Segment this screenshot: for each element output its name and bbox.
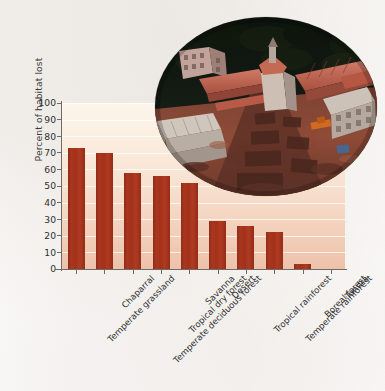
x-axis-tick-mark — [303, 270, 304, 274]
bar — [68, 148, 85, 269]
bar — [237, 226, 254, 269]
x-axis-tick-mark — [104, 270, 105, 274]
y-axis-tick-label: 60 — [44, 165, 56, 174]
y-axis-tick: 30 — [30, 213, 56, 225]
x-axis-tick-mark — [246, 270, 247, 274]
x-axis-tick-mark — [189, 270, 190, 274]
x-axis-tick-mark — [76, 270, 77, 274]
y-axis-tick-label: 70 — [44, 148, 56, 157]
aerial-photo-oval — [155, 17, 377, 196]
y-axis-tick-label: 50 — [44, 181, 56, 190]
y-axis-tick-label: 10 — [44, 248, 56, 257]
x-axis-tick-mark — [161, 270, 162, 274]
habitat-loss-figure: Percent of habitat lost 1009080706050403… — [0, 0, 385, 391]
x-axis-tick-mark — [331, 270, 332, 274]
y-axis-tick-labels: 1009080706050403020100 — [30, 97, 56, 273]
y-axis-tick-label: 20 — [44, 231, 56, 240]
bar — [181, 183, 198, 269]
y-axis-tick-label: 100 — [38, 98, 56, 107]
y-axis-tick-label: 90 — [44, 115, 56, 124]
bar — [209, 221, 226, 269]
y-axis-tick-label: 80 — [44, 132, 56, 141]
y-axis-tick: 60 — [30, 163, 56, 175]
y-axis-tick: 50 — [30, 180, 56, 192]
x-axis-tick-mark — [274, 270, 275, 274]
x-axis-tick-mark — [218, 270, 219, 274]
y-axis-tick-label: 30 — [44, 215, 56, 224]
x-axis-line — [55, 269, 347, 270]
y-axis-tick: 40 — [30, 197, 56, 209]
bar — [153, 176, 170, 269]
bar — [294, 264, 311, 269]
y-axis-tick: 80 — [30, 130, 56, 142]
y-axis-tick-label: 40 — [44, 198, 56, 207]
y-axis-tick: 100 — [30, 97, 56, 109]
bar — [124, 173, 141, 269]
y-axis-tick: 20 — [30, 230, 56, 242]
bar — [266, 232, 283, 269]
y-axis-tick: 70 — [30, 147, 56, 159]
bar — [96, 153, 113, 269]
y-axis-tick: 90 — [30, 114, 56, 126]
y-axis-tick: 10 — [30, 246, 56, 258]
y-axis-tick: 0 — [30, 263, 56, 275]
x-axis-tick-mark — [133, 270, 134, 274]
